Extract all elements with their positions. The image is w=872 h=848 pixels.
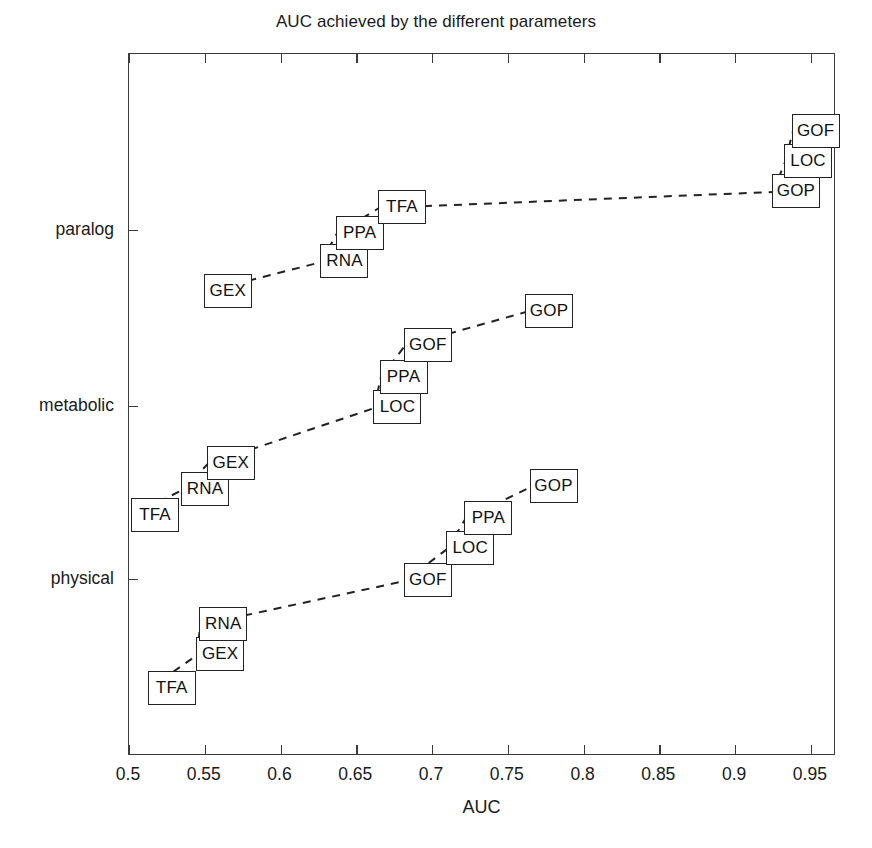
x-tick-top [129, 54, 130, 63]
x-tick-top [356, 54, 357, 63]
x-tick [129, 745, 130, 754]
data-marker-paralog-gex: GEX [204, 274, 252, 308]
data-marker-paralog-loc: LOC [784, 144, 832, 178]
data-marker-metabolic-tfa: TFA [131, 498, 179, 532]
data-marker-physical-tfa: TFA [148, 671, 196, 705]
data-marker-physical-rna: RNA [199, 607, 247, 641]
x-tick-label: 0.65 [338, 764, 372, 785]
x-tick-top [281, 54, 282, 63]
x-tick [281, 745, 282, 754]
y-tick-label-physical: physical [0, 568, 114, 589]
x-tick-top [811, 54, 812, 63]
x-tick-top [508, 54, 509, 63]
y-tick [129, 230, 138, 231]
x-tick-label: 0.75 [490, 764, 524, 785]
x-tick-top [205, 54, 206, 63]
data-marker-paralog-gof: GOF [792, 114, 840, 148]
x-tick-label: 0.9 [722, 764, 746, 785]
x-tick-label: 0.8 [570, 764, 594, 785]
x-tick [432, 745, 433, 754]
x-tick-top [584, 54, 585, 63]
data-marker-metabolic-ppa: PPA [380, 360, 428, 394]
x-tick-top [659, 54, 660, 63]
data-marker-paralog-ppa: PPA [336, 216, 384, 250]
chart-figure: AUC achieved by the different parameters… [0, 0, 872, 848]
x-tick-label: 0.55 [187, 764, 221, 785]
data-marker-paralog-tfa: TFA [378, 190, 426, 224]
x-tick [508, 745, 509, 754]
y-tick-label-metabolic: metabolic [0, 395, 114, 416]
x-tick [584, 745, 585, 754]
x-tick-label: 0.85 [641, 764, 675, 785]
x-tick-label: 0.95 [793, 764, 827, 785]
x-tick-top [432, 54, 433, 63]
data-marker-physical-ppa: PPA [464, 501, 512, 535]
connector-line-paralog [379, 192, 773, 208]
x-tick [659, 745, 660, 754]
data-marker-paralog-gop: GOP [772, 174, 820, 208]
x-tick [205, 745, 206, 754]
data-marker-metabolic-gof: GOF [404, 328, 452, 362]
x-tick [356, 745, 357, 754]
data-marker-metabolic-gop: GOP [525, 294, 573, 328]
x-tick [811, 745, 812, 754]
x-tick [735, 745, 736, 754]
y-tick [129, 579, 138, 580]
data-marker-physical-gop: GOP [530, 469, 578, 503]
x-tick-top [735, 54, 736, 63]
data-marker-physical-gof: GOF [404, 563, 452, 597]
data-marker-metabolic-gex: GEX [207, 446, 255, 480]
data-marker-physical-loc: LOC [446, 531, 494, 565]
x-tick-label: 0.6 [267, 764, 291, 785]
data-marker-metabolic-loc: LOC [373, 390, 421, 424]
x-axis-label: AUC [128, 797, 835, 818]
y-tick [129, 406, 138, 407]
chart-title: AUC achieved by the different parameters [0, 12, 872, 32]
y-tick-label-paralog: paralog [0, 219, 114, 240]
x-tick-label: 0.5 [116, 764, 140, 785]
x-tick-label: 0.7 [419, 764, 443, 785]
data-marker-physical-gex: GEX [196, 637, 244, 671]
